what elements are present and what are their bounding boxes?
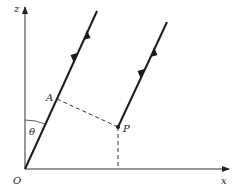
arrow-up-icon: [84, 30, 91, 40]
point-p-dot: [116, 125, 120, 129]
angle-arc: [25, 120, 45, 124]
origin-label: O: [13, 175, 21, 186]
dashed-line-a-p: [57, 99, 118, 127]
point-p-label: P: [122, 123, 130, 134]
diagram-figure: z x O A P θ: [0, 0, 239, 190]
x-axis-label: x: [221, 175, 227, 186]
diagram-canvas: z x O A P θ: [0, 0, 239, 190]
z-axis-label: z: [13, 3, 20, 14]
point-a-label: A: [45, 92, 53, 103]
angle-theta-label: θ: [29, 126, 35, 137]
arrow-up-icon: [151, 47, 158, 57]
